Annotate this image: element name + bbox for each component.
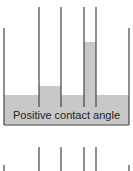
contact-angle-label: Positive contact angle xyxy=(4,109,129,121)
capillary-diagram xyxy=(0,0,133,171)
narrow-tube-liquid xyxy=(84,42,96,107)
wide-tube-liquid xyxy=(39,86,61,107)
